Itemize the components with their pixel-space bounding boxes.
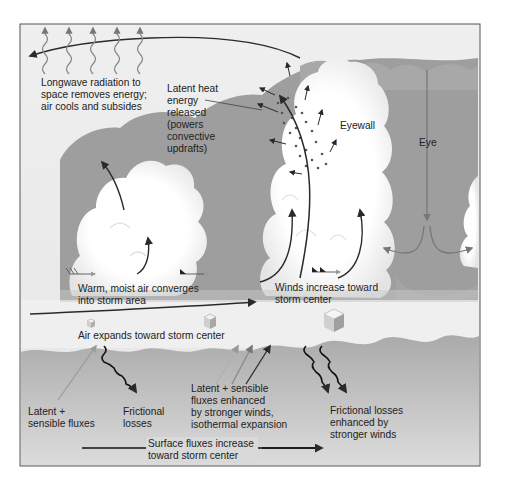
label-eyewall: Eyewall xyxy=(340,120,375,132)
label-frictional-enhanced: Frictional losses enhanced by stronger w… xyxy=(330,405,403,441)
label-winds-increase: Winds increase toward storm center xyxy=(275,282,378,306)
label-latent-sensible: Latent + sensible fluxes xyxy=(28,406,95,430)
cube-medium xyxy=(204,314,216,329)
label-eye: Eye xyxy=(419,137,437,149)
label-longwave: Longwave radiation to space removes ener… xyxy=(41,77,147,113)
label-latent-heat: Latent heat energy released (powers conv… xyxy=(167,83,218,155)
label-frictional: Frictional losses xyxy=(123,406,164,430)
label-latent-enhanced: Latent + sensible fluxes enhanced by str… xyxy=(191,383,287,431)
label-air-expands: Air expands toward storm center xyxy=(78,330,225,342)
label-warm-moist-air: Warm, moist air converges into storm are… xyxy=(78,283,199,307)
label-surface-fluxes: Surface fluxes increase toward storm cen… xyxy=(148,438,254,462)
